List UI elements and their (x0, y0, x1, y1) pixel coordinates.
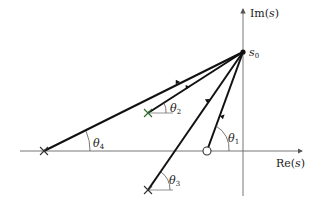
theta1-symbol: θ (228, 132, 235, 145)
imag-axis-label: Im(s) (250, 8, 279, 19)
theta3-sub: 3 (176, 180, 180, 188)
theta4-arc (86, 131, 90, 151)
theta2-symbol: θ (170, 102, 177, 115)
imag-axis-label-close: ) (275, 7, 279, 20)
real-axis-label: Re(s) (276, 158, 305, 169)
real-axis-label-text: Re( (276, 157, 295, 170)
theta3-label: θ3 (169, 175, 180, 188)
theta1-sub: 1 (235, 138, 239, 146)
theta2-arc (164, 103, 166, 113)
s0-label-sub: 0 (255, 52, 259, 60)
theta4-sub: 4 (100, 143, 104, 151)
real-axis-label-close: ) (301, 157, 305, 170)
theta4-symbol: θ (93, 137, 100, 150)
theta3-symbol: θ (169, 174, 176, 187)
theta2-label: θ2 (170, 103, 181, 116)
theta1-label: θ1 (228, 133, 239, 146)
vector-pole-2 (148, 52, 243, 113)
s0-label: s0 (249, 47, 259, 60)
zero-marker (203, 147, 211, 155)
theta4-label: θ4 (93, 138, 104, 151)
vector-pole-3 (148, 52, 243, 190)
imag-axis-label-text: Im( (250, 7, 269, 20)
test-point-s0 (240, 49, 245, 54)
direction-arrows (174, 78, 225, 119)
root-locus-diagram (0, 0, 316, 208)
theta2-sub: 2 (177, 108, 181, 116)
